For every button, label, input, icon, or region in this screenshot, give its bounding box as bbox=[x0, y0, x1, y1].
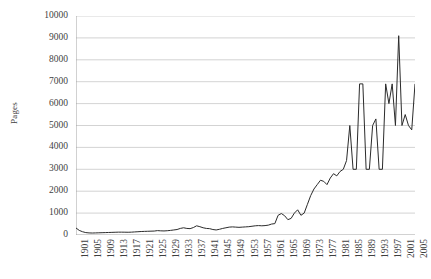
x-tick-label: 1937 bbox=[197, 239, 207, 258]
x-axis-tick-labels: 1901190519091913191719211925192919331937… bbox=[76, 239, 415, 279]
y-tick-label: 6000 bbox=[49, 99, 68, 109]
y-tick-label: 4000 bbox=[49, 143, 68, 153]
x-tick-label: 1957 bbox=[263, 239, 273, 258]
x-tick-label: 1917 bbox=[132, 239, 142, 258]
x-tick-label: 1905 bbox=[93, 239, 103, 258]
x-tick-label: 1921 bbox=[145, 239, 155, 258]
y-tick-label: 10000 bbox=[44, 11, 68, 21]
x-tick-label: 1973 bbox=[315, 239, 325, 258]
x-tick-label: 1929 bbox=[171, 239, 181, 258]
x-tick-label: 1933 bbox=[184, 239, 194, 258]
x-tick-label: 2005 bbox=[419, 239, 429, 258]
x-tick-label: 1909 bbox=[106, 239, 116, 258]
x-tick-label: 1969 bbox=[302, 239, 312, 258]
series-line-pages bbox=[76, 36, 415, 233]
x-tick-label: 1989 bbox=[367, 239, 377, 258]
x-tick-label: 1981 bbox=[341, 239, 351, 258]
y-tick-label: 2000 bbox=[49, 186, 68, 196]
y-tick-label: 7000 bbox=[49, 77, 68, 87]
x-tick-label: 1993 bbox=[380, 239, 390, 258]
x-tick-label: 1945 bbox=[223, 239, 233, 258]
x-tick-label: 1941 bbox=[210, 239, 220, 258]
y-tick-label: 5000 bbox=[49, 121, 68, 131]
x-tick-label: 1997 bbox=[393, 239, 403, 258]
x-tick-label: 1925 bbox=[158, 239, 168, 258]
x-tick-label: 1961 bbox=[276, 239, 286, 258]
chart-plot-svg bbox=[76, 16, 415, 235]
y-tick-label: 3000 bbox=[49, 165, 68, 175]
x-tick-label: 1901 bbox=[80, 239, 90, 258]
y-tick-label: 9000 bbox=[49, 33, 68, 43]
x-tick-label: 1949 bbox=[236, 239, 246, 258]
y-axis-tick-labels: 1000090008000700060005000400030002000100… bbox=[16, 16, 72, 235]
plot-area bbox=[76, 16, 415, 235]
x-tick-label: 1913 bbox=[119, 239, 129, 258]
y-tick-label: 0 bbox=[63, 230, 68, 240]
y-tick-label: 1000 bbox=[49, 208, 68, 218]
y-tick-label: 8000 bbox=[49, 55, 68, 65]
x-tick-label: 1977 bbox=[328, 239, 338, 258]
x-tick-label: 2001 bbox=[406, 239, 416, 258]
x-tick-label: 1965 bbox=[289, 239, 299, 258]
chart-container: Pages 1000090008000700060005000400030002… bbox=[0, 0, 431, 279]
x-tick-label: 1985 bbox=[354, 239, 364, 258]
x-tick-label: 1953 bbox=[250, 239, 260, 258]
